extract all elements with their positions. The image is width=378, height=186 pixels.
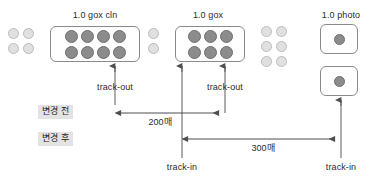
loose-wafer-group-middle <box>148 28 159 54</box>
wafer-dot <box>113 46 126 59</box>
wafer-dot <box>97 30 110 43</box>
wafer-dot <box>148 28 159 39</box>
dimension-label-300: 300매 <box>248 144 277 153</box>
wafer-dot <box>261 26 272 37</box>
wafer-dot <box>276 56 287 67</box>
wafer-dot <box>334 76 345 87</box>
loose-wafer-group-left <box>8 28 34 54</box>
label-track-out-right: track-out <box>207 83 243 92</box>
phase-chip-before: 변경 전 <box>38 105 73 119</box>
wafer-dot <box>148 43 159 54</box>
wafer-dot <box>8 28 19 39</box>
cassette-gox-cln <box>50 26 140 62</box>
wafer-dot <box>276 41 287 52</box>
label-gox: 1.0 gox <box>193 11 223 20</box>
wafer-dot <box>220 30 233 43</box>
label-photo: 1.0 photo <box>322 11 360 20</box>
label-gox-cln: 1.0 gox cln <box>73 11 118 20</box>
wafer-dot <box>188 30 201 43</box>
loose-wafer-group-right <box>261 26 287 67</box>
label-track-in-right: track-in <box>326 163 356 172</box>
wafer-dot <box>65 30 78 43</box>
wafer-dot <box>220 46 233 59</box>
wafer-dot <box>23 43 34 54</box>
cassette-photo-bottom <box>320 66 358 96</box>
cassette-gox <box>175 26 245 62</box>
wafer-dot <box>334 34 345 45</box>
wafer-dot <box>261 41 272 52</box>
wafer-dot <box>261 56 272 67</box>
wafer-dot <box>8 43 19 54</box>
wafer-dot <box>81 46 94 59</box>
label-track-in-middle: track-in <box>167 163 197 172</box>
wafer-dot <box>81 30 94 43</box>
wafer-dot <box>113 30 126 43</box>
wafer-dot <box>23 28 34 39</box>
phase-chip-after: 변경 후 <box>38 132 73 146</box>
wafer-dot <box>65 46 78 59</box>
dimension-label-200: 200매 <box>145 118 174 127</box>
label-track-out-left: track-out <box>97 83 133 92</box>
wafer-dot <box>204 46 217 59</box>
wafer-dot <box>97 46 110 59</box>
wafer-dot <box>204 30 217 43</box>
wafer-dot <box>276 26 287 37</box>
cassette-photo-top <box>320 24 358 54</box>
wafer-dot <box>188 46 201 59</box>
diagram-canvas: 1.0 gox cln 1.0 gox 1.0 photo track-out … <box>0 0 378 186</box>
